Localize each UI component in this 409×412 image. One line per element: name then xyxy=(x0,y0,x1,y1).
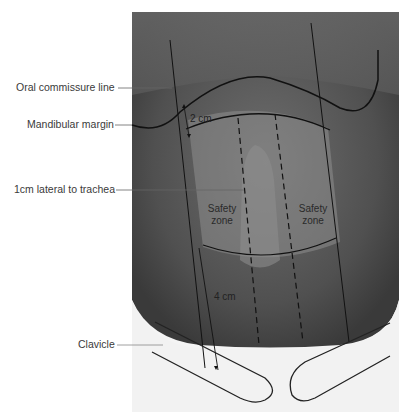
label-mandibular-margin: Mandibular margin xyxy=(27,118,114,130)
measurement-4cm: 4 cm xyxy=(214,291,236,302)
measurement-2cm: 2 cm xyxy=(190,113,212,124)
safety-zone-right-line1: Safety xyxy=(291,203,335,215)
label-clavicle: Clavicle xyxy=(78,338,115,350)
safety-zone-right: Safety zone xyxy=(291,203,335,227)
safety-zone-left: Safety zone xyxy=(200,203,244,227)
label-lateral-trachea: 1cm lateral to trachea xyxy=(14,183,115,195)
safety-zone-left-line2: zone xyxy=(200,215,244,227)
safety-zone-right-line2: zone xyxy=(291,215,335,227)
label-oral-commissure: Oral commissure line xyxy=(16,81,115,93)
safety-zone-left-line1: Safety xyxy=(200,203,244,215)
